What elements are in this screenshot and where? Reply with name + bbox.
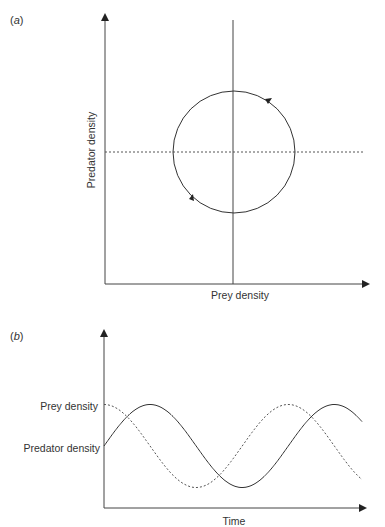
prey-density-tick-label: Prey density bbox=[40, 400, 99, 412]
prey-density-curve bbox=[104, 405, 362, 488]
panel-a-y-label: Predator density bbox=[85, 111, 97, 188]
predator-density-curve bbox=[104, 405, 362, 488]
panel-a-x-label: Prey density bbox=[211, 289, 270, 301]
panel-b-x-label: Time bbox=[223, 515, 246, 527]
panel-b: (b) Prey density Predator density Time bbox=[10, 330, 363, 527]
panel-a: (a) Prey density Predator density bbox=[10, 14, 366, 301]
panel-b-label: (b) bbox=[10, 330, 23, 342]
predator-density-tick-label: Predator density bbox=[24, 442, 101, 454]
cycle-direction-arrow-lower bbox=[189, 194, 194, 201]
panel-a-label: (a) bbox=[10, 14, 23, 26]
figure-canvas: (a) Prey density Predator density (b) Pr… bbox=[0, 0, 385, 527]
